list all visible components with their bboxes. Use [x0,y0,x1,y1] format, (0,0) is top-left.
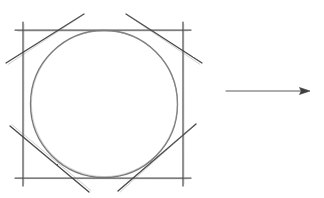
chamfer-line-bottom-left [10,125,91,192]
arrowhead-icon [300,88,311,95]
diagram-canvas [0,0,324,198]
square-edge-left [23,22,24,186]
corner-tangent-lines [6,14,202,192]
square-edge-right [183,22,184,186]
square-shape [15,22,191,186]
transformation-arrow [226,88,310,95]
chamfer-line-top-left [6,14,84,65]
inscribed-circle [31,31,178,178]
construction-figure [0,0,324,198]
